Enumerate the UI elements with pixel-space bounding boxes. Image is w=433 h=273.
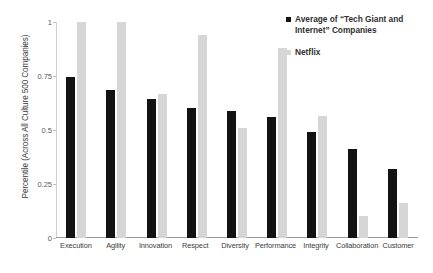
x-axis-label: Agility (96, 241, 136, 250)
bar (307, 132, 316, 238)
legend-item[interactable]: Average of “Tech Giant and Internet” Com… (286, 14, 432, 36)
x-axis-label: Respect (175, 241, 215, 250)
legend-item[interactable]: Netflix (286, 47, 432, 58)
bar-chart: Percentile (Across All Culture 500 Compa… (0, 0, 433, 273)
bar (388, 169, 397, 238)
y-tick-label: 1 (48, 18, 52, 27)
bar (106, 90, 115, 238)
chart-legend: Average of “Tech Giant and Internet” Com… (286, 14, 432, 69)
x-axis-label: Execution (56, 241, 96, 250)
bar (66, 77, 75, 238)
y-axis-title: Percentile (Across All Culture 500 Compa… (21, 0, 30, 235)
y-tick-label: 0 (48, 234, 52, 243)
bar (187, 108, 196, 238)
y-tick-label: 0.75 (37, 72, 52, 81)
y-tick-label: 0.5 (42, 126, 52, 135)
bar (278, 48, 287, 238)
legend-label: Netflix (295, 47, 320, 58)
y-tick-mark (53, 238, 56, 239)
bar (238, 128, 247, 238)
bar (359, 216, 368, 238)
bar (399, 203, 408, 238)
x-axis-label: Integrity (296, 241, 336, 250)
bar (117, 22, 126, 238)
x-axis-label: Innovation (136, 241, 176, 250)
x-axis-label: Performance (255, 241, 296, 250)
y-tick-label: 0.25 (37, 180, 52, 189)
bar (267, 117, 276, 238)
x-axis-label: Customer (378, 241, 418, 250)
bar (227, 111, 236, 238)
bar-group (56, 22, 96, 238)
x-axis-label: Diversity (215, 241, 255, 250)
legend-label: Average of “Tech Giant and Internet” Com… (295, 14, 432, 36)
legend-swatch-icon (286, 50, 291, 55)
bar-group (96, 22, 136, 238)
x-axis-category-labels: ExecutionAgilityInnovationRespectDiversi… (56, 241, 418, 250)
bar (158, 94, 167, 238)
bar (198, 35, 207, 238)
bar (77, 22, 86, 238)
bar-group (217, 22, 257, 238)
bar (348, 149, 357, 238)
bar-group (136, 22, 176, 238)
legend-swatch-icon (286, 17, 291, 22)
x-axis-label: Collaboration (336, 241, 378, 250)
bar (147, 99, 156, 238)
bar (318, 116, 327, 238)
bar-group (177, 22, 217, 238)
